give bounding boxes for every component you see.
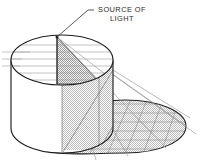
cylinder-shadow-diagram: SOURCE OF LIGHT xyxy=(0,0,201,165)
leader-line xyxy=(57,10,94,37)
source-of-light-label: SOURCE OF LIGHT xyxy=(57,5,146,37)
technical-drawing-figure: SOURCE OF LIGHT xyxy=(0,0,201,165)
label-line-2: LIGHT xyxy=(110,14,134,23)
label-line-1: SOURCE OF xyxy=(98,5,146,14)
